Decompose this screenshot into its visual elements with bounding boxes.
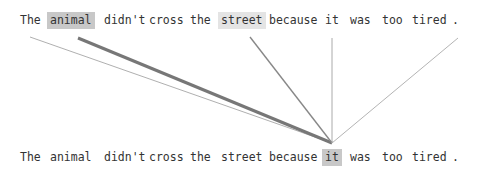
token: because <box>266 12 320 29</box>
attention-edge <box>78 38 332 143</box>
token: . <box>449 12 462 29</box>
token: street <box>218 149 266 166</box>
token: it <box>322 149 342 166</box>
token: animal <box>47 149 95 166</box>
token: was <box>347 149 374 166</box>
token: cross <box>146 12 187 29</box>
token: the <box>187 149 214 166</box>
token: too <box>379 12 406 29</box>
token: didn't <box>101 12 149 29</box>
attention-edge <box>332 38 458 143</box>
token: because <box>266 149 320 166</box>
token: too <box>379 149 406 166</box>
token: cross <box>146 149 187 166</box>
top-token-row: Theanimaldidn'tcrossthestreetbecauseitwa… <box>0 12 477 30</box>
bottom-token-row: Theanimaldidn'tcrossthestreetbecauseitwa… <box>0 149 477 167</box>
token: tired <box>409 12 450 29</box>
token: animal <box>47 12 95 29</box>
token: was <box>347 12 374 29</box>
token: . <box>449 149 462 166</box>
token: didn't <box>101 149 149 166</box>
token: street <box>218 12 266 29</box>
token: the <box>187 12 214 29</box>
token: The <box>17 149 44 166</box>
attention-edge <box>30 37 332 143</box>
token: The <box>17 12 44 29</box>
token: it <box>322 12 342 29</box>
token: tired <box>409 149 450 166</box>
